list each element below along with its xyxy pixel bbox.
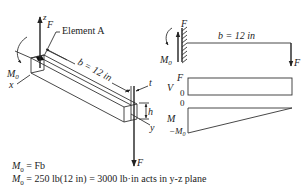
force-top-label: F	[46, 19, 54, 30]
equation-1: M0 = Fb	[12, 160, 45, 174]
equation-2: M0 = 250 lb(12 in) = 3000 lb·in acts in …	[12, 173, 206, 187]
shear-bottom-value: 0	[180, 88, 185, 98]
moment-axis-label: M	[166, 113, 176, 124]
dim-b-line-right	[112, 83, 129, 92]
dim-t-arrow-right	[136, 86, 148, 91]
shear-diagram: F V 0	[167, 72, 292, 98]
wall-hatching	[182, 27, 187, 63]
moment-diagram: 0 M −M0	[166, 98, 292, 137]
shear-top-value: F	[176, 72, 184, 83]
x-axis-line	[17, 75, 30, 84]
beam-far-bottom	[124, 119, 137, 122]
figure-svg: z F Element A M0 x b = 12 in F t h y	[0, 0, 308, 190]
beam-length-label: b = 12 in	[218, 30, 255, 41]
cantilever-2d: F M0 b = 12 in F	[159, 18, 301, 68]
shear-axis-label: V	[167, 82, 175, 93]
dim-h-label: h	[148, 106, 153, 117]
moment-arrow	[17, 37, 27, 63]
reaction-moment-label: M0	[159, 54, 172, 67]
y-axis-label: y	[149, 122, 155, 133]
applied-force-label: F	[293, 57, 301, 68]
reaction-force-label: F	[180, 18, 188, 29]
element-a-label: Element A	[62, 25, 105, 36]
dim-t-label: t	[149, 77, 152, 88]
x-axis-label: x	[8, 79, 14, 90]
moment-top-value: 0	[180, 98, 185, 108]
force-bottom-label: F	[136, 157, 144, 168]
moment-bottom-value: −M0	[169, 126, 186, 137]
cantilever-figure: z F Element A M0 x b = 12 in F t h y	[0, 0, 308, 190]
moment-triangle	[188, 108, 292, 133]
shear-rect	[188, 78, 292, 95]
reaction-moment-arrow	[166, 28, 172, 45]
dim-b-line-left	[46, 49, 75, 64]
